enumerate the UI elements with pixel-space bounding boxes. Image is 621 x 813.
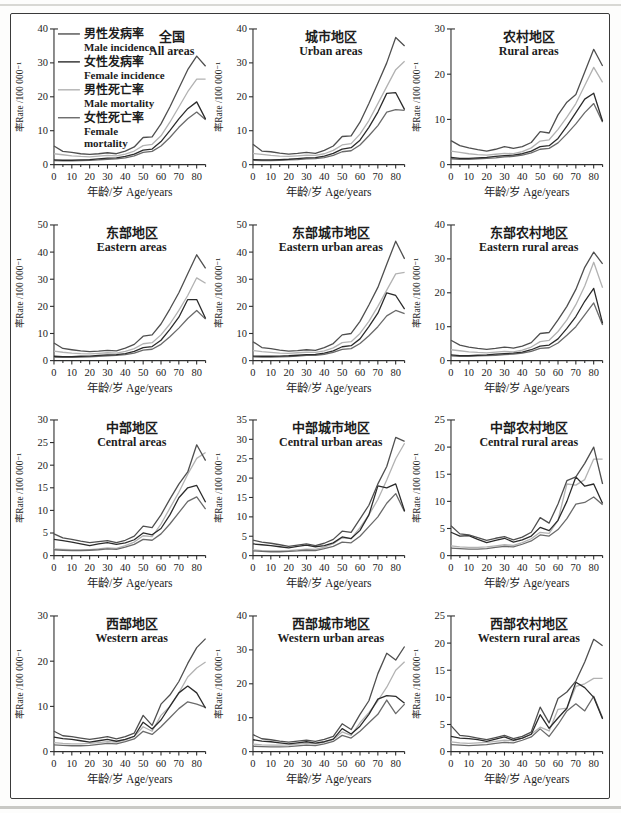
x-tick-label: 70 (571, 562, 581, 573)
panel-title-en: Eastern areas (97, 239, 167, 253)
x-axis-title: 年龄/岁 Age/years (286, 380, 372, 394)
y-tick-label: 30 (236, 434, 246, 445)
y-tick-label: 0 (241, 355, 246, 366)
series-lines (253, 437, 405, 551)
series-line-female-incidence (451, 682, 603, 741)
panel-title-zh: 农村地区 (502, 29, 555, 44)
panel-title-zh: 东部城市地区 (291, 224, 369, 239)
x-tick-label: 10 (67, 757, 77, 768)
y-tick-label: 20 (38, 655, 48, 666)
series-lines (451, 639, 603, 745)
x-tick-label: 40 (319, 171, 329, 182)
chart-panel-1: 01020304001020304050607080年龄/岁 Age/years… (211, 15, 410, 211)
y-tick-label: 40 (236, 610, 246, 621)
y-tick-label: 10 (236, 712, 246, 723)
x-ticks: 01020304050607080 (250, 360, 404, 377)
y-tick-label: 40 (435, 219, 445, 230)
y-tick-label: 5 (440, 523, 445, 534)
legend-label-zh: 男性死亡率 (84, 82, 144, 97)
x-tick-label: 70 (372, 562, 382, 573)
x-ticks: 01020304050607080 (449, 556, 603, 573)
y-tick-label: 15 (435, 664, 445, 675)
x-tick-label: 30 (301, 171, 311, 182)
y-tick-label: 20 (435, 287, 445, 298)
x-tick-label: 70 (372, 757, 382, 768)
y-tick-label: 0 (440, 355, 445, 366)
chart-panel-10: 01020304001020304050607080年龄/岁 Age/years… (211, 602, 410, 798)
y-tick-label: 10 (236, 125, 246, 136)
x-tick-label: 40 (517, 562, 527, 573)
panel-title-en: Central areas (97, 435, 167, 449)
x-tick-label: 40 (319, 757, 329, 768)
series-line-female-mortality (253, 310, 405, 357)
y-ticks: 01020304050 (236, 219, 252, 366)
series-line-male-mortality (451, 67, 603, 155)
legend-label-en: Male incidence (84, 41, 154, 53)
x-ticks: 01020304050607080 (250, 751, 404, 768)
x-tick-label: 40 (319, 562, 329, 573)
x-tick-label: 30 (500, 366, 510, 377)
x-tick-label: 70 (174, 366, 184, 377)
series-line-female-mortality (451, 104, 603, 160)
series-line-female-mortality (451, 696, 603, 745)
x-tick-label: 0 (250, 366, 255, 377)
y-tick-label: 30 (38, 610, 48, 621)
figure-frame: 01020304001020304050607080年龄/岁 Age/years… (10, 13, 610, 799)
x-tick-label: 80 (390, 171, 400, 182)
panel-title-en: Central urban areas (279, 435, 383, 449)
y-tick-label: 0 (241, 159, 246, 170)
x-axis-title: 年龄/岁 Age/years (484, 576, 570, 590)
series-lines (451, 447, 603, 549)
y-tick-label: 0 (43, 355, 48, 366)
x-tick-label: 0 (51, 757, 56, 768)
series-line-female-incidence (451, 477, 603, 543)
x-tick-label: 20 (482, 562, 492, 573)
panel-title-zh: 中部城市地区 (291, 420, 369, 435)
y-ticks: 0102030 (435, 23, 451, 170)
y-axis-title: 率Rate /100 000⁻¹ (411, 648, 422, 718)
legend-label-zh: 女性死亡率 (84, 110, 144, 125)
x-tick-label: 0 (250, 757, 255, 768)
x-tick-label: 30 (102, 757, 112, 768)
panel-title-zh: 西部地区 (106, 615, 158, 630)
panel-title-zh: 东部农村地区 (490, 224, 568, 239)
x-tick-label: 20 (84, 757, 94, 768)
y-tick-label: 25 (236, 453, 246, 464)
chart-panel-11: 051015202501020304050607080年龄/岁 Age/year… (409, 602, 608, 798)
series-line-male-incidence (253, 241, 405, 351)
x-tick-label: 60 (156, 562, 166, 573)
series-line-female-mortality (253, 494, 405, 552)
x-tick-label: 80 (191, 562, 201, 573)
x-tick-label: 60 (553, 757, 563, 768)
x-tick-label: 0 (449, 366, 454, 377)
y-axis-title: 率Rate /100 000⁻¹ (411, 257, 422, 327)
series-lines (54, 254, 206, 357)
panel-title-en: All areas (149, 44, 195, 58)
y-tick-label: 0 (440, 159, 445, 170)
x-tick-label: 20 (283, 171, 293, 182)
y-ticks: 0510152025 (435, 610, 451, 757)
x-tick-label: 30 (500, 562, 510, 573)
series-line-male-mortality (253, 272, 405, 353)
panel-title-en: Central rural areas (480, 435, 579, 449)
x-tick-label: 50 (535, 562, 545, 573)
y-axis-title: 率Rate /100 000⁻¹ (213, 648, 224, 718)
y-tick-label: 20 (435, 69, 445, 80)
x-tick-label: 50 (535, 171, 545, 182)
series-line-female-incidence (54, 485, 206, 545)
series-line-male-mortality (54, 452, 206, 549)
x-tick-label: 20 (283, 562, 293, 573)
x-tick-label: 20 (84, 562, 94, 573)
panel-title-zh: 城市地区 (304, 29, 356, 44)
x-tick-label: 60 (553, 366, 563, 377)
y-tick-label: 50 (38, 219, 48, 230)
x-tick-label: 20 (84, 171, 94, 182)
y-tick-label: 30 (435, 253, 445, 264)
x-tick-label: 0 (449, 757, 454, 768)
x-tick-label: 70 (571, 366, 581, 377)
x-tick-label: 40 (120, 171, 130, 182)
x-tick-label: 40 (120, 366, 130, 377)
x-tick-label: 60 (354, 171, 364, 182)
y-tick-label: 20 (38, 300, 48, 311)
x-tick-label: 70 (571, 171, 581, 182)
